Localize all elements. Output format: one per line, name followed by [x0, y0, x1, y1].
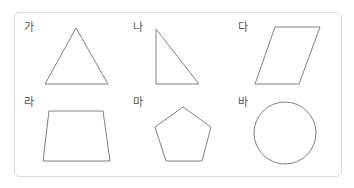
trapezoid-shape	[43, 111, 110, 161]
circle-shape	[254, 102, 316, 164]
right-triangle-shape	[156, 29, 199, 84]
shapes-canvas	[0, 0, 354, 188]
parallelogram-shape	[255, 27, 320, 84]
pentagon-shape	[155, 107, 211, 161]
triangle-shape	[45, 28, 108, 84]
